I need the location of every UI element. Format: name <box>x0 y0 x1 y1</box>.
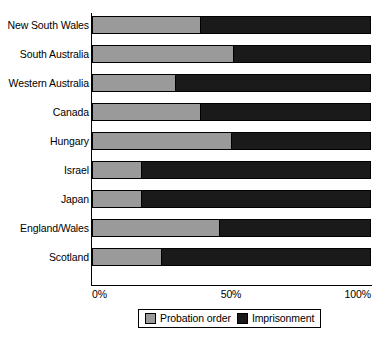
bar-segment-imprisonment <box>219 219 371 237</box>
category-label: Hungary <box>0 132 89 150</box>
chart-legend: Probation order Imprisonment <box>138 309 321 328</box>
xtick-label-50: 50% <box>221 288 242 300</box>
bar-segment-probation-order <box>92 74 176 92</box>
bar-segment-imprisonment <box>141 190 371 208</box>
bar-segment-imprisonment <box>141 161 371 179</box>
category-label: South Australia <box>0 45 89 63</box>
bar-row <box>92 103 371 121</box>
legend-label-probation-order: Probation order <box>160 313 231 324</box>
bar-segment-probation-order <box>92 161 142 179</box>
category-label: Canada <box>0 103 89 121</box>
bar-segment-probation-order <box>92 190 142 208</box>
bar-segment-imprisonment <box>231 132 372 150</box>
plot-area <box>92 13 371 285</box>
bar-segment-imprisonment <box>161 248 371 266</box>
bar-row <box>92 248 371 266</box>
value-axis-line <box>91 285 372 286</box>
category-label: Scotland <box>0 248 89 266</box>
category-label: New South Wales <box>0 16 89 34</box>
xtick-label-100: 100% <box>345 288 371 300</box>
bar-segment-probation-order <box>92 103 201 121</box>
bar-segment-probation-order <box>92 16 201 34</box>
bar-segment-imprisonment <box>175 74 371 92</box>
bar-segment-probation-order <box>92 45 234 63</box>
bar-segment-probation-order <box>92 248 162 266</box>
bar-row <box>92 132 371 150</box>
bar-segment-imprisonment <box>200 16 371 34</box>
bar-segment-imprisonment <box>233 45 371 63</box>
legend-swatch-probation-order-icon <box>145 313 156 324</box>
category-label: Japan <box>0 190 89 208</box>
bar-row <box>92 16 371 34</box>
category-label: Western Australia <box>0 74 89 92</box>
bar-row <box>92 45 371 63</box>
bar-row <box>92 74 371 92</box>
bar-row <box>92 161 371 179</box>
legend-item-probation-order: Probation order <box>145 313 231 324</box>
legend-label-imprisonment: Imprisonment <box>252 313 314 324</box>
category-label: England/Wales <box>0 219 89 237</box>
legend-item-imprisonment: Imprisonment <box>237 313 314 324</box>
category-label: Israel <box>0 161 89 179</box>
bar-segment-probation-order <box>92 219 220 237</box>
stacked-bar-chart: New South WalesSouth AustraliaWestern Au… <box>0 0 386 338</box>
bar-row <box>92 190 371 208</box>
bar-row <box>92 219 371 237</box>
xtick-label-0: 0% <box>92 288 107 300</box>
legend-swatch-imprisonment-icon <box>237 313 248 324</box>
bar-segment-imprisonment <box>200 103 371 121</box>
bar-segment-probation-order <box>92 132 232 150</box>
